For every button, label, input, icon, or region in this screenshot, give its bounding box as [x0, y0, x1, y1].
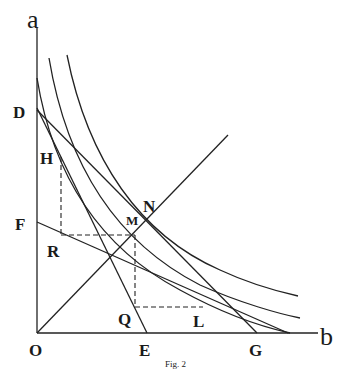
- point-H-label: H: [40, 149, 53, 168]
- point-M-label: M: [126, 213, 138, 228]
- point-E-label: E: [139, 341, 150, 360]
- point-N-label: N: [143, 197, 156, 216]
- line-F: [37, 222, 288, 333]
- point-Q-label: Q: [118, 310, 131, 329]
- indifference-curve-inner: [37, 78, 290, 333]
- point-D-label: D: [13, 103, 25, 122]
- figure-caption: Fig. 2: [165, 359, 186, 369]
- point-R-label: R: [47, 242, 60, 261]
- point-L-label: L: [193, 312, 204, 331]
- point-F-label: F: [15, 215, 25, 234]
- diagram-canvas: a b O D H F R M N Q L E G Fig. 2: [0, 0, 350, 384]
- y-axis-label: a: [27, 5, 39, 34]
- point-G-label: G: [249, 341, 262, 360]
- x-axis-label: b: [320, 322, 333, 351]
- origin-label: O: [29, 341, 42, 360]
- indifference-curve-middle: [49, 58, 300, 318]
